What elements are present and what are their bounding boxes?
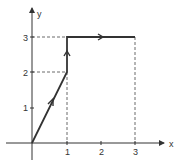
- x-tick-label: 3: [133, 147, 138, 157]
- diagram: x y 1 2 3 1 2 3: [0, 0, 180, 167]
- axis-ticks: [30, 37, 135, 145]
- y-axis-label: y: [37, 9, 42, 19]
- y-tick-label: 2: [23, 68, 28, 78]
- y-tick-label: 3: [23, 33, 28, 43]
- path: [32, 37, 135, 143]
- x-tick-label: 2: [99, 147, 104, 157]
- x-axis-label: x: [169, 139, 174, 149]
- y-tick-label: 1: [23, 103, 28, 113]
- guide-lines: [32, 37, 135, 143]
- x-tick-label: 1: [65, 147, 70, 157]
